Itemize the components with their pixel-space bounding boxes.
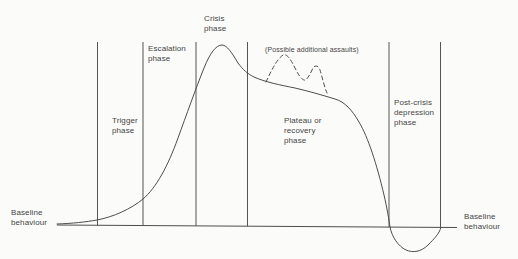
label-crisis-phase: Crisis phase bbox=[204, 14, 226, 34]
label-plateau-recovery-phase: Plateau or recovery phase bbox=[284, 116, 321, 146]
label-escalation-phase: Escalation phase bbox=[148, 44, 186, 64]
phase-boundary-lines bbox=[98, 42, 441, 227]
diagram-canvas bbox=[0, 0, 518, 259]
label-additional-assaults-note: (Possible additional assaults) bbox=[265, 45, 359, 54]
baseline-line bbox=[57, 225, 457, 228]
arousal-curve bbox=[57, 45, 441, 252]
label-baseline-behaviour-right: Baseline behaviour bbox=[464, 212, 500, 232]
label-post-crisis-depression-phase: Post-crisis depression phase bbox=[394, 98, 434, 128]
assault-cycle-diagram: Crisis phase Escalation phase Trigger ph… bbox=[0, 0, 518, 259]
label-trigger-phase: Trigger phase bbox=[112, 116, 138, 136]
additional-assaults-curve bbox=[266, 55, 327, 93]
label-baseline-behaviour-left: Baseline behaviour bbox=[11, 208, 47, 228]
